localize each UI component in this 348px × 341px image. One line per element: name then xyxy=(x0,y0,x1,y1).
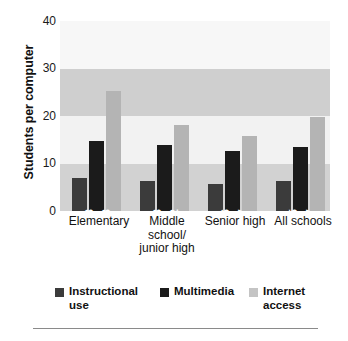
bar-series-container: 6.9 14.8 25.3 6.3 13.8 18.2 xyxy=(60,21,330,211)
bar-group-all-schools: 6.3 13.5 19.7 xyxy=(272,21,330,211)
bar-value-elementary-multimedia: 14.8 xyxy=(82,188,97,211)
bar-value-senior-high-internet-access: 15.7 xyxy=(235,188,250,211)
legend-swatch-internet-access xyxy=(249,288,258,297)
x-axis-tick-labels: Elementary Middle school/ junior high Se… xyxy=(60,215,330,277)
bar-value-all-schools-multimedia: 13.5 xyxy=(286,188,301,211)
bottom-divider xyxy=(33,328,318,329)
bar-value-all-schools-internet-access: 19.7 xyxy=(303,188,318,211)
y-tick-20: 20 xyxy=(32,110,56,122)
legend-swatch-multimedia xyxy=(160,288,169,297)
bar-value-middle-school-instructional-use: 6.3 xyxy=(133,188,148,211)
bar-middle-school-internet-access[interactable]: 18.2 xyxy=(174,125,189,212)
y-tick-30: 30 xyxy=(32,62,56,74)
legend-label-multimedia: Multimedia xyxy=(174,284,234,298)
bar-group-senior-high: 5.6 12.6 15.7 xyxy=(204,21,266,211)
x-label-middle-school-junior-high: Middle school/ junior high xyxy=(136,215,198,256)
x-label-elementary: Elementary xyxy=(60,215,138,229)
bar-value-middle-school-multimedia: 13.8 xyxy=(150,188,165,211)
legend-label-instructional-use: Instructional use xyxy=(69,284,138,312)
bar-group-middle-school-junior-high: 6.3 13.8 18.2 xyxy=(136,21,198,211)
plot-area: 6.9 14.8 25.3 6.3 13.8 18.2 xyxy=(60,21,330,211)
legend-label-internet-access: Internet access xyxy=(263,284,305,312)
bar-value-senior-high-instructional-use: 5.6 xyxy=(201,188,216,211)
chart-figure: Students per computer 40 30 20 10 0 6.9 … xyxy=(0,0,348,341)
bar-value-middle-school-internet-access: 18.2 xyxy=(167,188,182,211)
y-tick-0: 0 xyxy=(32,205,56,217)
bar-all-schools-internet-access[interactable]: 19.7 xyxy=(310,117,325,211)
bar-senior-high-internet-access[interactable]: 15.7 xyxy=(242,136,257,211)
bar-elementary-internet-access[interactable]: 25.3 xyxy=(106,91,121,211)
bar-value-all-schools-instructional-use: 6.3 xyxy=(269,188,284,211)
y-axis-tick-labels: 40 30 20 10 0 xyxy=(30,0,56,341)
bar-value-senior-high-multimedia: 12.6 xyxy=(218,188,233,211)
x-label-senior-high: Senior high xyxy=(204,215,266,229)
legend-swatch-instructional-use xyxy=(55,288,64,297)
bar-group-elementary: 6.9 14.8 25.3 xyxy=(68,21,130,211)
y-tick-40: 40 xyxy=(32,15,56,27)
bar-value-elementary-instructional-use: 6.9 xyxy=(65,188,80,211)
y-tick-10: 10 xyxy=(32,157,56,169)
bar-value-elementary-internet-access: 25.3 xyxy=(99,188,114,211)
x-label-all-schools: All schools xyxy=(272,215,334,229)
chart-legend: Instructional use Multimedia Internet ac… xyxy=(55,286,325,320)
